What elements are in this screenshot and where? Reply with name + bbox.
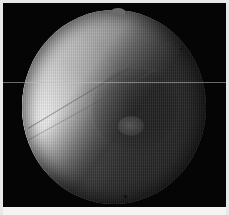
collimator-notch: [111, 8, 125, 15]
dark-speck-secondary: [180, 48, 182, 50]
circular-aperture: [22, 10, 206, 204]
bright-nodule: [118, 116, 144, 136]
fluoroscopy-image-viewer: [0, 0, 229, 215]
detector-field: [3, 3, 226, 207]
central-opacity: [92, 68, 178, 150]
dark-speck: [124, 195, 127, 198]
bottom-strip: [0, 207, 229, 215]
